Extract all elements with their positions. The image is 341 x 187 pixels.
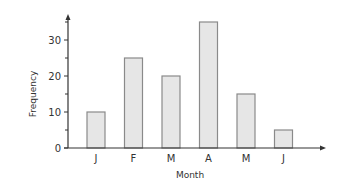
x-tick-label: F [131, 153, 137, 164]
bar-a-3 [200, 22, 218, 148]
x-tick-label: A [205, 153, 212, 164]
bar-f-1 [125, 58, 143, 148]
x-tick-label: J [94, 153, 98, 164]
y-axis-arrow-icon [66, 14, 71, 20]
x-tick-label: J [281, 153, 285, 164]
bar-m-4 [237, 94, 255, 148]
bar-j-0 [87, 112, 105, 148]
y-axis-title: Frequency [28, 70, 38, 117]
y-tick-label: 30 [48, 35, 61, 46]
x-axis-arrow-icon [320, 146, 326, 151]
x-axis-title: Month [176, 170, 204, 180]
x-tick-label: M [167, 153, 176, 164]
x-tick-label: M [242, 153, 251, 164]
bar-m-2 [162, 76, 180, 148]
x-axis: JFMAMJ [64, 146, 326, 165]
bar-j-5 [275, 130, 293, 148]
y-tick-label: 10 [48, 107, 61, 118]
y-tick-label: 0 [55, 143, 61, 154]
y-tick-label: 20 [48, 71, 61, 82]
bars-group [87, 22, 293, 148]
y-axis: 0102030 [48, 14, 70, 154]
bar-chart: 0102030 JFMAMJ Frequency Month [0, 0, 341, 187]
